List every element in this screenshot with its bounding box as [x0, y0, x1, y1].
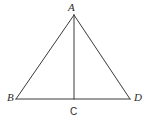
vertex-label-c: C — [70, 106, 77, 117]
vertex-label-b: B — [7, 92, 14, 103]
vertex-label-d: D — [134, 92, 142, 103]
vertex-label-a: A — [68, 2, 75, 13]
triangle-diagram-svg — [0, 0, 151, 121]
geometry-figure: A B C D — [0, 0, 151, 121]
